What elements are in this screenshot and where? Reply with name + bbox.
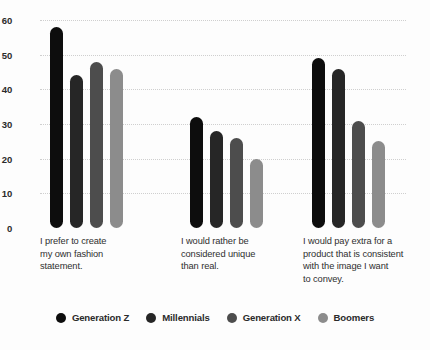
bar-generation-z-group-1[interactable] bbox=[50, 27, 63, 228]
legend-item-millennials[interactable]: Millennials bbox=[146, 312, 209, 323]
bar-millennials-group-2[interactable] bbox=[210, 131, 223, 228]
caption-line: statement. bbox=[40, 260, 152, 273]
legend-item-boomers[interactable]: Boomers bbox=[318, 312, 375, 323]
caption-line: to convey. bbox=[303, 273, 430, 286]
category-caption-2: I would rather be considered unique than… bbox=[181, 235, 293, 273]
ytick-label-20: 20 bbox=[0, 153, 12, 164]
legend-swatch-icon bbox=[318, 313, 328, 323]
legend-swatch-icon bbox=[227, 313, 237, 323]
caption-line: product that is consistent bbox=[303, 248, 430, 261]
bar-group-3 bbox=[312, 20, 392, 228]
caption-line: with the image I want bbox=[303, 260, 430, 273]
ytick-label-10: 10 bbox=[0, 188, 12, 199]
category-captions: I prefer to create my own fashion statem… bbox=[40, 235, 420, 297]
bar-boomers-group-1[interactable] bbox=[110, 69, 123, 228]
bar-generation-z-group-2[interactable] bbox=[190, 117, 203, 228]
legend-label: Generation Z bbox=[72, 312, 129, 323]
legend-label: Millennials bbox=[162, 312, 209, 323]
ytick-label-60: 60 bbox=[0, 15, 12, 26]
ytick-label-40: 40 bbox=[0, 84, 12, 95]
bar-boomers-group-3[interactable] bbox=[372, 141, 385, 228]
category-caption-3: I would pay extra for a product that is … bbox=[303, 235, 430, 285]
caption-line: I prefer to create bbox=[40, 235, 152, 248]
bar-generation-x-group-1[interactable] bbox=[90, 62, 103, 228]
legend-swatch-icon bbox=[56, 313, 66, 323]
bar-boomers-group-2[interactable] bbox=[250, 159, 263, 228]
bar-groups-layer bbox=[40, 20, 406, 228]
bar-generation-x-group-3[interactable] bbox=[352, 121, 365, 228]
ytick-label-50: 50 bbox=[0, 49, 12, 60]
caption-line: considered unique bbox=[181, 248, 293, 261]
category-caption-1: I prefer to create my own fashion statem… bbox=[40, 235, 152, 273]
ytick-label-0: 0 bbox=[0, 223, 12, 234]
legend-item-generation-z[interactable]: Generation Z bbox=[56, 312, 129, 323]
bar-generation-z-group-3[interactable] bbox=[312, 58, 325, 228]
legend-label: Boomers bbox=[334, 312, 375, 323]
legend-swatch-icon bbox=[146, 313, 156, 323]
legend-item-generation-x[interactable]: Generation X bbox=[227, 312, 301, 323]
bar-group-1 bbox=[50, 20, 130, 228]
bar-group-2 bbox=[190, 20, 270, 228]
bar-millennials-group-3[interactable] bbox=[332, 69, 345, 228]
caption-line: my own fashion bbox=[40, 248, 152, 261]
plot-area: 60 50 40 30 20 10 0 bbox=[40, 20, 406, 228]
bar-generation-x-group-2[interactable] bbox=[230, 138, 243, 228]
grouped-bar-chart: 60 50 40 30 20 10 0 I prefer to create m… bbox=[0, 0, 430, 350]
caption-line: I would rather be bbox=[181, 235, 293, 248]
legend-label: Generation X bbox=[243, 312, 301, 323]
ytick-label-30: 30 bbox=[0, 119, 12, 130]
caption-line: than real. bbox=[181, 260, 293, 273]
bar-millennials-group-1[interactable] bbox=[70, 75, 83, 228]
caption-line: I would pay extra for a bbox=[303, 235, 430, 248]
chart-legend: Generation ZMillennialsGeneration XBoome… bbox=[0, 312, 430, 323]
